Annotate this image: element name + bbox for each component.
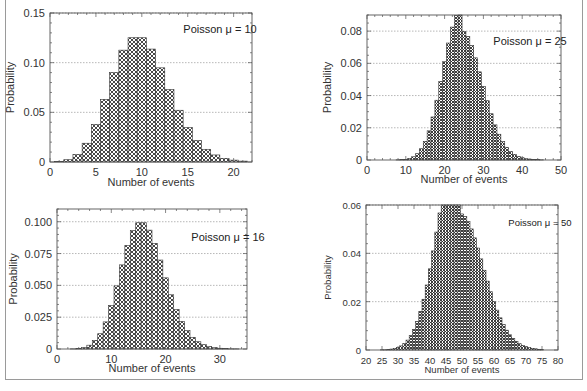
bar	[98, 334, 103, 349]
chart-panel-mu-50: 00.020.040.0620253035404550556065707580N…	[322, 200, 572, 375]
bar	[462, 31, 466, 160]
y-tick-label: 0.025	[24, 311, 52, 323]
bar	[168, 295, 173, 349]
bar	[439, 81, 443, 160]
chart-panel-mu-16: 00.0250.0500.0750.1000102030Number of ev…	[7, 209, 265, 374]
bar	[502, 325, 505, 350]
bar	[114, 286, 119, 349]
y-tick-label: 0.08	[341, 25, 362, 37]
bar	[485, 101, 489, 160]
bar	[481, 87, 485, 160]
bar	[137, 38, 146, 162]
y-tick-label: 0.10	[24, 57, 45, 69]
bar	[406, 340, 409, 350]
bar	[470, 229, 473, 350]
bar	[492, 301, 495, 350]
bar	[518, 344, 521, 350]
bar	[496, 310, 499, 350]
bar	[103, 322, 108, 349]
x-axis-label: Number of events	[108, 176, 195, 188]
x-tick-label: 35	[409, 355, 420, 366]
bar	[474, 58, 478, 160]
y-tick-label: 0.02	[341, 122, 362, 134]
y-axis-label: Probability	[322, 255, 333, 300]
bar	[438, 213, 441, 350]
bar	[130, 231, 135, 349]
bar	[454, 205, 457, 350]
bar	[423, 141, 427, 160]
bar	[489, 114, 493, 160]
bar	[427, 131, 431, 160]
bar	[501, 142, 505, 160]
bar	[458, 15, 462, 160]
x-tick-label: 40	[516, 164, 528, 176]
bar	[165, 90, 174, 162]
x-tick-label: 75	[537, 355, 548, 366]
y-tick-label: 0.04	[343, 248, 362, 259]
bar	[82, 143, 91, 162]
bar	[478, 72, 482, 160]
bar	[119, 265, 124, 349]
bar	[443, 62, 447, 160]
bar	[464, 217, 467, 350]
bar	[416, 154, 420, 160]
bar	[109, 306, 114, 349]
bar	[450, 27, 454, 160]
chart-panel-mu-10: 00.050.100.1505101520Number of eventsPro…	[4, 7, 257, 188]
x-tick-label: 0	[54, 353, 60, 365]
bar	[110, 73, 119, 162]
bar	[92, 340, 97, 349]
bar	[128, 38, 137, 162]
x-tick-label: 25	[377, 355, 388, 366]
x-tick-label: 20	[361, 355, 372, 366]
bar	[201, 345, 206, 349]
y-tick-label: 0.05	[24, 106, 45, 118]
chart-panel-mu-25: 00.020.040.060.0801020304050Number of ev…	[321, 15, 567, 185]
bar	[119, 50, 128, 162]
bar	[141, 223, 146, 349]
bar	[179, 322, 184, 349]
bar	[125, 245, 130, 349]
bar	[441, 205, 444, 350]
bar	[516, 156, 520, 160]
bar	[136, 223, 141, 349]
bar	[480, 259, 483, 350]
bar	[416, 321, 419, 350]
y-axis-label: Probability	[321, 61, 333, 113]
x-tick-label: 20	[228, 166, 240, 178]
bar	[419, 311, 422, 350]
bar	[422, 299, 425, 350]
x-tick-label: 10	[400, 164, 412, 176]
y-tick-label: 0.075	[24, 248, 52, 260]
distribution-annotation: Poisson μ = 10	[183, 23, 256, 35]
bar	[509, 151, 513, 160]
bar	[156, 68, 165, 162]
bar	[447, 43, 451, 160]
bar	[499, 318, 502, 350]
x-tick-label: 30	[214, 353, 226, 365]
distribution-annotation: Poisson μ = 16	[191, 231, 264, 243]
y-tick-label: 0	[39, 156, 45, 168]
bar	[473, 238, 476, 350]
bar	[493, 125, 497, 160]
bar	[190, 337, 195, 349]
bar	[521, 345, 524, 350]
bar	[505, 330, 508, 350]
bar	[163, 278, 168, 349]
bar	[432, 251, 435, 350]
bar	[428, 269, 431, 350]
x-axis-label: Number of events	[421, 173, 508, 185]
y-tick-label: 0	[356, 154, 362, 166]
y-tick-label: 0.06	[341, 57, 362, 69]
bar	[497, 134, 501, 160]
bar	[466, 36, 470, 160]
poisson-charts: 00.050.100.1505101520Number of eventsPro…	[0, 0, 587, 391]
bar	[435, 100, 439, 160]
bar	[448, 205, 451, 350]
bar	[174, 110, 183, 162]
bar	[185, 331, 190, 349]
x-axis-label: Number of events	[109, 362, 196, 374]
distribution-annotation: Poisson μ = 25	[493, 35, 566, 47]
bar	[444, 205, 447, 350]
x-tick-label: 0	[364, 164, 370, 176]
